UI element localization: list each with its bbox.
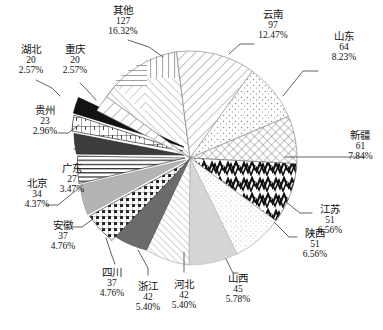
label-yunnan-value: 97 xyxy=(238,20,308,30)
label-other-value: 127 xyxy=(88,16,158,26)
label-shandong-value: 64 xyxy=(313,42,375,52)
label-chongqing-percent: 2.57% xyxy=(52,65,98,75)
label-guizhou-percent: 2.96% xyxy=(22,126,68,136)
label-jiangsu-name: 江苏 xyxy=(307,204,353,215)
label-anhui-name: 安徽 xyxy=(40,220,86,231)
label-guizhou-name: 贵州 xyxy=(22,105,68,116)
label-other: 其他 127 16.32% xyxy=(88,5,158,36)
label-anhui: 安徽 37 4.76% xyxy=(40,220,86,251)
label-xinjiang-value: 61 xyxy=(338,141,383,151)
label-sichuan: 四川 37 4.76% xyxy=(89,267,135,298)
label-shaanxi-value: 51 xyxy=(292,239,338,249)
pie-chart: 其他 127 16.32% 云南 97 12.47% 山东 64 8.23% 新… xyxy=(0,0,383,330)
label-hubei: 湖北 20 2.57% xyxy=(8,44,54,75)
label-shanxi-value: 45 xyxy=(215,284,261,294)
leader-sichuan xyxy=(106,238,115,264)
label-shaanxi-percent: 6.56% xyxy=(292,249,338,259)
leader-shandong xyxy=(283,71,318,96)
label-hubei-percent: 2.57% xyxy=(8,65,54,75)
label-guangdong-name: 广东 xyxy=(49,163,95,174)
label-chongqing: 重庆 20 2.57% xyxy=(52,44,98,75)
label-hubei-value: 20 xyxy=(8,55,54,65)
label-shandong-percent: 8.23% xyxy=(313,52,375,62)
label-chongqing-value: 20 xyxy=(52,55,98,65)
label-other-percent: 16.32% xyxy=(88,26,158,36)
label-guizhou: 贵州 23 2.96% xyxy=(22,105,68,136)
label-shanxi-name: 山西 xyxy=(215,273,261,284)
label-guizhou-value: 23 xyxy=(22,116,68,126)
label-shaanxi: 陕西 51 6.56% xyxy=(292,228,338,259)
label-sichuan-percent: 4.76% xyxy=(89,288,135,298)
label-yunnan-name: 云南 xyxy=(238,9,308,20)
label-shaanxi-name: 陕西 xyxy=(292,228,338,239)
label-shanxi-percent: 5.78% xyxy=(215,294,261,304)
label-yunnan: 云南 97 12.47% xyxy=(238,9,308,40)
leader-shanxi xyxy=(226,259,238,273)
label-guangdong-percent: 3.47% xyxy=(49,184,95,194)
label-sichuan-name: 四川 xyxy=(89,267,135,278)
leader-other xyxy=(128,40,163,57)
label-guangdong: 广东 27 3.47% xyxy=(49,163,95,194)
label-other-name: 其他 xyxy=(88,5,158,16)
label-shandong: 山东 64 8.23% xyxy=(313,31,375,62)
label-xinjiang: 新疆 61 7.84% xyxy=(338,130,383,161)
label-hubei-name: 湖北 xyxy=(8,44,54,55)
label-sichuan-value: 37 xyxy=(89,278,135,288)
label-shanxi: 山西 45 5.78% xyxy=(215,273,261,304)
label-guangdong-value: 27 xyxy=(49,174,95,184)
label-zhejiang-percent: 5.40% xyxy=(125,302,171,312)
label-anhui-percent: 4.76% xyxy=(40,241,86,251)
leader-chongqing xyxy=(80,83,96,100)
leader-yunnan xyxy=(229,44,254,54)
leader-zhejiang xyxy=(138,250,148,275)
label-chongqing-name: 重庆 xyxy=(52,44,98,55)
leader-hubei xyxy=(36,80,60,96)
label-anhui-value: 37 xyxy=(40,231,86,241)
label-xinjiang-percent: 7.84% xyxy=(338,151,383,161)
label-shandong-name: 山东 xyxy=(313,31,375,42)
label-xinjiang-name: 新疆 xyxy=(338,130,383,141)
label-jiangsu-value: 51 xyxy=(307,215,353,225)
label-yunnan-percent: 12.47% xyxy=(238,30,308,40)
label-beijing-percent: 4.37% xyxy=(14,199,60,209)
